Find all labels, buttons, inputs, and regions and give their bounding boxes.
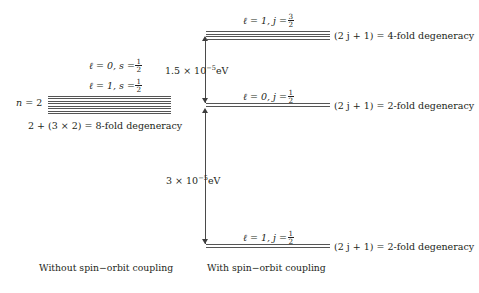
arrowhead-up-lower (202, 108, 208, 113)
level-line (48, 98, 171, 99)
fraction-one-half-2: 12 (135, 78, 142, 94)
level-line (206, 39, 330, 40)
j-label-4: j = (273, 91, 287, 102)
level-line (206, 31, 330, 32)
caption-with-spin-orbit: With spin−orbit coupling (207, 262, 326, 273)
fraction-one-half-1: 12 (135, 58, 142, 74)
s-label-2: s = (119, 80, 135, 91)
caption-without-spin-orbit: Without spin−orbit coupling (39, 262, 173, 273)
level-line (206, 247, 330, 248)
fraction-three-halves: 32 (288, 13, 295, 29)
level-l1-j32-lines (206, 30, 330, 41)
level-line (206, 106, 330, 107)
level-l1-j12-lines (206, 243, 330, 249)
unsplit-level-lines (48, 94, 171, 116)
n-symbol: n (16, 97, 22, 108)
n-value: = 2 (25, 97, 42, 108)
gap-lower-mantissa: 3 × 10 (166, 175, 198, 186)
j-label-3: j = (273, 15, 287, 26)
level-l1-j12-degeneracy-label: (2 j + 1) = 2-fold degeneracy (334, 242, 474, 252)
unsplit-quantum-label-s1: ℓ = 1, s =12 (89, 78, 143, 94)
level-line (48, 96, 171, 97)
level-line (206, 244, 330, 245)
ell-label-4: ℓ = 0, (243, 91, 270, 102)
level-line (206, 36, 330, 37)
level-line (48, 103, 171, 104)
level-l0-j12-lines (206, 102, 330, 108)
ell-label-2: ℓ = 1, (89, 80, 116, 91)
gap-upper-exponent: −5 (206, 64, 216, 72)
gap-upper-mantissa: 1.5 × 10 (165, 65, 206, 76)
level-line (48, 101, 171, 102)
n-equals-2-label: n = 2 (16, 98, 42, 108)
j-label-5: j = (273, 232, 287, 243)
energy-gap-lower-label: 3 × 10−5eV (166, 176, 220, 186)
ell-label-1: ℓ = 0, (89, 60, 116, 71)
level-line (48, 108, 171, 109)
level-line (48, 111, 171, 112)
level-line (206, 103, 330, 104)
energy-gap-upper-label: 1.5 × 10−5eV (165, 66, 228, 76)
gap-lower-exponent: −5 (198, 174, 208, 182)
level-l0-j12-degeneracy-label: (2 j + 1) = 2-fold degeneracy (334, 101, 474, 111)
level-line (48, 106, 171, 107)
level-line (48, 113, 171, 114)
level-l1-j32-quantum-label: ℓ = 1, j =32 (243, 13, 295, 29)
ell-label-3: ℓ = 1, (243, 15, 270, 26)
gap-lower-unit: eV (208, 175, 220, 186)
unsplit-quantum-label-s0: ℓ = 0, s =12 (89, 58, 143, 74)
level-l1-j32-degeneracy-label: (2 j + 1) = 4-fold degeneracy (334, 31, 474, 41)
gap-upper-unit: eV (216, 65, 228, 76)
s-label-1: s = (119, 60, 135, 71)
unsplit-degeneracy-label: 2 + (3 × 2) = 8-fold degeneracy (28, 121, 182, 131)
energy-level-diagram: ℓ = 0, s =12 ℓ = 1, s =12 n = 2 2 + (3 ×… (0, 0, 479, 293)
level-line (206, 34, 330, 35)
ell-label-5: ℓ = 1, (243, 232, 270, 243)
